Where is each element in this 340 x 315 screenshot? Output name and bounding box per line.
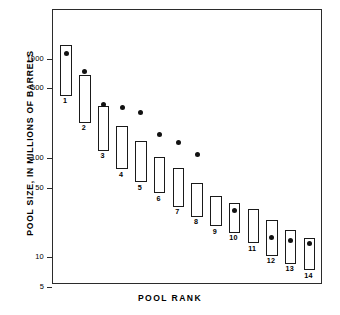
rank-label: 2 [72, 123, 96, 132]
rank-label: 5 [128, 183, 152, 192]
rank-label: 3 [91, 151, 115, 160]
rank-label: 8 [184, 217, 208, 226]
y-tick-mark [47, 287, 52, 288]
point-estimate-dot [138, 110, 143, 115]
range-bar [98, 106, 110, 151]
point-estimate-dot [64, 51, 69, 56]
range-bar [173, 168, 185, 206]
y-tick-label: 5 [40, 282, 44, 291]
range-bar [210, 196, 222, 226]
point-estimate-dot [307, 241, 312, 246]
y-tick-label: 1000 [27, 54, 45, 63]
range-bar [116, 126, 128, 170]
rank-label: 6 [147, 194, 171, 203]
y-tick-label: 50 [35, 183, 44, 192]
rank-label: 1 [53, 96, 77, 105]
y-tick-label: 10 [35, 252, 44, 261]
range-bar [79, 75, 91, 122]
chart-figure: POOL SIZE, IN MILLIONS OF BARRELS 1000 5… [0, 0, 340, 315]
range-bar [285, 230, 297, 263]
rank-label: 4 [109, 170, 133, 179]
y-tick-label: 500 [31, 83, 44, 92]
y-tick-label: 100 [31, 153, 44, 162]
rank-label: 10 [222, 233, 246, 242]
range-bar [135, 141, 147, 182]
point-estimate-dot [195, 152, 200, 157]
point-estimate-dot [157, 132, 162, 137]
point-estimate-dot [82, 69, 87, 74]
range-bar [248, 209, 260, 243]
point-estimate-dot [176, 140, 181, 145]
plot-area [52, 9, 322, 284]
x-axis-title: POOL RANK [0, 293, 340, 303]
rank-label: 7 [166, 207, 190, 216]
range-bar [191, 183, 203, 217]
rank-label: 11 [241, 244, 265, 253]
point-estimate-dot [120, 105, 125, 110]
range-bar [154, 157, 166, 194]
rank-label: 14 [297, 271, 321, 280]
